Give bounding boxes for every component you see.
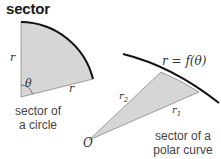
circle-sector: r θ r sector of a circle xyxy=(10,22,93,132)
r1-label: r1 xyxy=(172,104,181,118)
polar-caption-line2: polar curve xyxy=(153,143,213,157)
circle-sector-fill xyxy=(21,22,93,97)
circle-caption-line2: a circle xyxy=(19,118,57,132)
sector-diagram: r θ r sector of a circle r = f(θ) O r2 r… xyxy=(0,0,221,159)
radius-label-left: r xyxy=(10,51,16,64)
radius-label-bottom: r xyxy=(69,82,75,95)
r2-label: r2 xyxy=(119,90,129,104)
polar-caption-line1: sector of a xyxy=(155,129,211,143)
polar-sector: r = f(θ) O r2 r1 sector of a polar curve xyxy=(83,54,219,157)
angle-label: θ xyxy=(25,77,32,90)
circle-caption-line1: sector of xyxy=(15,104,62,118)
curve-label: r = f(θ) xyxy=(162,54,207,68)
origin-label: O xyxy=(83,136,93,150)
